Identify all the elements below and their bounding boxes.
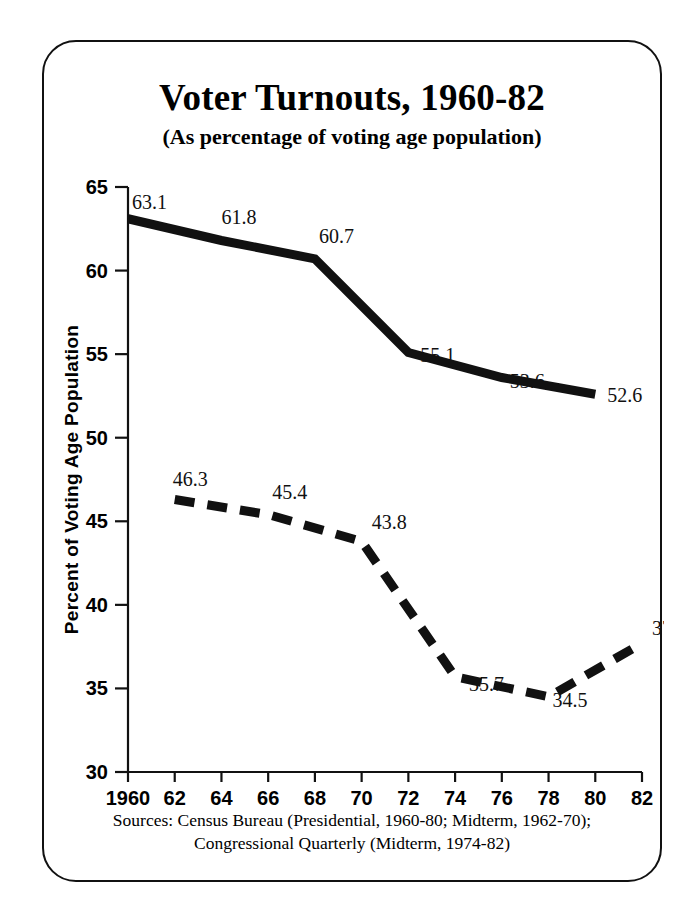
data-point-label: 60.7 <box>319 225 354 247</box>
y-axis-title: Percent of Voting Age Population <box>61 325 82 634</box>
figure-frame: Voter Turnouts, 1960-82 (As percentage o… <box>42 40 662 882</box>
data-point-labels: 63.161.860.755.153.652.646.345.443.835.7… <box>132 191 664 711</box>
x-tick-label: 76 <box>491 787 513 809</box>
data-point-label: 45.4 <box>272 481 307 503</box>
data-point-label: 55.1 <box>420 344 455 366</box>
x-tick-label: 80 <box>584 787 606 809</box>
y-tick-label: 40 <box>86 594 108 616</box>
y-axis-title-text: Percent of Voting Age Population <box>61 325 82 634</box>
data-point-label: 63.1 <box>132 191 167 213</box>
x-tick-label: 72 <box>397 787 419 809</box>
x-tick-label: 64 <box>210 787 233 809</box>
series-line-midterm <box>175 500 642 697</box>
y-tick-label: 45 <box>86 510 108 532</box>
x-tick-label: 66 <box>257 787 279 809</box>
y-tick-label: 55 <box>86 343 108 365</box>
data-point-label: 34.5 <box>553 689 588 711</box>
y-tick-label: 30 <box>86 761 108 783</box>
y-tick-label: 50 <box>86 427 108 449</box>
y-axis: 3035404550556065 <box>86 176 128 783</box>
x-axis: 19606264666870727476788082 <box>106 772 653 809</box>
data-point-label: 53.6 <box>510 370 545 392</box>
x-tick-label: 78 <box>537 787 559 809</box>
y-tick-label: 65 <box>86 176 108 198</box>
data-point-label: 61.8 <box>221 206 256 228</box>
line-chart-plot: 3035404550556065 19606264666870727476788… <box>44 42 664 884</box>
data-point-label: 35.7 <box>469 673 504 695</box>
data-point-label: 52.6 <box>607 384 642 406</box>
source-line-2: Congressional Quarterly (Midterm, 1974-8… <box>62 832 642 854</box>
data-point-label: 43.8 <box>372 511 407 533</box>
series-lines <box>128 219 642 697</box>
x-tick-label: 62 <box>164 787 186 809</box>
y-tick-label: 35 <box>86 677 108 699</box>
source-note: Sources: Census Bureau (Presidential, 19… <box>62 809 642 854</box>
data-point-label: 37.7 <box>652 617 664 639</box>
x-tick-label: 70 <box>351 787 373 809</box>
x-tick-label: 68 <box>304 787 326 809</box>
x-tick-label: 82 <box>631 787 653 809</box>
y-tick-label: 60 <box>86 260 108 282</box>
data-point-label: 46.3 <box>173 468 208 490</box>
x-tick-label: 74 <box>444 787 467 809</box>
x-tick-label: 1960 <box>106 787 151 809</box>
series-line-presidential <box>128 219 595 395</box>
source-line-1: Sources: Census Bureau (Presidential, 19… <box>62 809 642 831</box>
